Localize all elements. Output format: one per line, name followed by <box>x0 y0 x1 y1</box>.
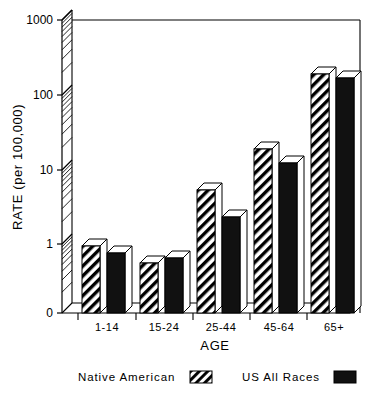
x-tick-label-15-24: 15-24 <box>149 321 180 333</box>
y-axis-minor-ticks <box>62 13 72 292</box>
bar-group-65-plus <box>311 67 361 313</box>
x-tick-label-1-14: 1-14 <box>95 321 119 333</box>
bar-group-45-64 <box>254 142 304 313</box>
y-axis-major-ticks <box>57 10 72 313</box>
bar-chart-svg: 1000 100 10 1 0 RATE (per 100,000) <box>0 0 380 397</box>
x-axis: 1-14 15-24 25-44 45-64 65+ AGE <box>78 313 344 353</box>
bar-group-15-24 <box>140 251 190 313</box>
y-tick-label-10: 10 <box>40 163 54 177</box>
bar-group-25-44 <box>197 183 247 313</box>
x-axis-title: AGE <box>200 338 229 353</box>
y-tick-label-100: 100 <box>33 88 53 102</box>
chart-legend: Native American US All Races <box>78 371 356 383</box>
legend-swatch-us-all-races <box>334 371 356 383</box>
legend-swatch-native-american <box>190 371 212 383</box>
y-tick-label-0: 0 <box>46 306 53 320</box>
y-axis: 1000 100 10 1 0 RATE (per 100,000) <box>10 10 72 320</box>
bar-native-american-15-24 <box>140 263 158 313</box>
x-tick-label-45-64: 45-64 <box>264 321 295 333</box>
bar-us-all-races-15-24 <box>165 258 183 313</box>
bar-native-american-65-plus <box>311 74 329 313</box>
chart-figure: 1000 100 10 1 0 RATE (per 100,000) <box>0 0 380 397</box>
y-tick-label-1: 1 <box>46 237 53 251</box>
bar-us-all-races-1-14 <box>107 253 125 313</box>
bar-native-american-45-64 <box>254 149 272 313</box>
bar-native-american-25-44 <box>197 190 215 313</box>
y-axis-title: RATE (per 100,000) <box>10 104 25 230</box>
x-tick-label-25-44: 25-44 <box>206 321 237 333</box>
bar-group-1-14 <box>82 239 132 313</box>
bar-us-all-races-45-64 <box>279 163 297 313</box>
legend-label-native-american: Native American <box>78 371 175 383</box>
legend-label-us-all-races: US All Races <box>242 371 320 383</box>
bar-native-american-1-14 <box>82 246 100 313</box>
y-tick-label-1000: 1000 <box>26 13 53 27</box>
x-tick-label-65-plus: 65+ <box>324 321 344 333</box>
bar-us-all-races-65-plus <box>336 78 354 313</box>
bar-us-all-races-25-44 <box>222 217 240 313</box>
